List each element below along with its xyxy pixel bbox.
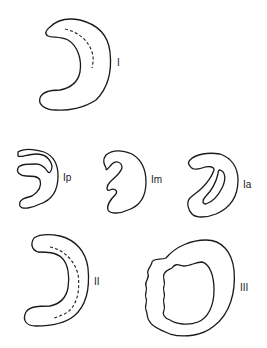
shape-III-label: III — [240, 282, 248, 293]
shape-II-label: II — [94, 276, 100, 287]
shape-III-outline — [145, 240, 234, 336]
shape-Im-outline — [104, 151, 146, 213]
shape-I-label: I — [117, 57, 120, 68]
shape-Ip: Ip — [17, 149, 71, 208]
shape-Im: Im — [104, 151, 162, 213]
shape-I: I — [40, 19, 120, 110]
shape-II: II — [24, 235, 99, 326]
shape-diagram: I Ip Im Ia II III — [0, 0, 267, 348]
shape-II-dashed-line — [50, 247, 79, 318]
shape-Ia: Ia — [188, 153, 252, 217]
shape-I-dashed-line — [65, 29, 93, 68]
shape-III: III — [145, 240, 248, 336]
shape-Ip-outline — [17, 149, 58, 208]
shape-Ia-inner-fold — [203, 170, 225, 204]
shape-Ia-label: Ia — [243, 179, 252, 190]
shape-Ia-outline — [188, 153, 238, 217]
shape-Ip-label: Ip — [63, 172, 72, 183]
shape-III-inner-outline — [163, 262, 214, 324]
shape-Im-label: Im — [151, 174, 162, 185]
